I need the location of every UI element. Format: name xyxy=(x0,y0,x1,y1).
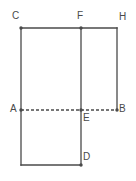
vertex-dot-A xyxy=(19,108,22,111)
vertex-label-D: D xyxy=(83,152,90,162)
vertex-label-E: E xyxy=(83,113,90,123)
geometry-canvas xyxy=(0,0,136,181)
vertex-dot-group xyxy=(19,26,118,166)
vertex-dot-D xyxy=(79,163,82,166)
vertex-label-B: B xyxy=(119,104,126,114)
vertex-label-F: F xyxy=(77,11,83,21)
geometry-diagram: CFHAEBD xyxy=(0,0,136,181)
vertex-dot-C xyxy=(19,26,22,29)
solid-line-group xyxy=(21,28,117,165)
vertex-label-C: C xyxy=(12,11,19,21)
vertex-dot-F xyxy=(79,26,82,29)
vertex-label-A: A xyxy=(10,104,17,114)
vertex-label-H: H xyxy=(119,12,126,22)
